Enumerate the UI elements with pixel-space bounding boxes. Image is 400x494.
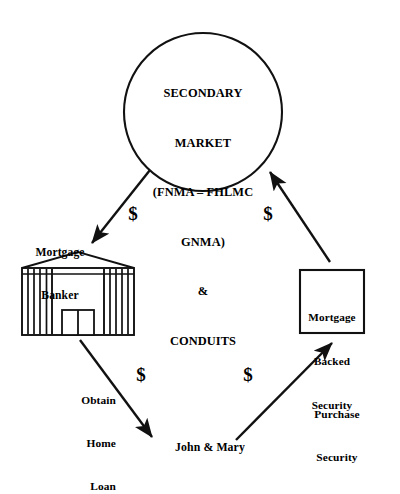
- mbs-line: Backed: [300, 354, 364, 369]
- mbs-line: Mortgage: [300, 310, 364, 325]
- dollar-sign-banker-to-borrower: $: [131, 364, 151, 386]
- borrower-label: John & Mary: [150, 441, 270, 455]
- dollar-sign-borrower-to-mbs: $: [238, 364, 258, 386]
- purchase-security-line: Security: [296, 450, 378, 464]
- obtain-home-loan-line: Home: [24, 436, 116, 450]
- secondary-market-line: (FNMA – FHLMC: [124, 184, 282, 201]
- secondary-market-line: MARKET: [124, 135, 282, 152]
- dollar-sign-secondary-to-banker: $: [123, 203, 143, 225]
- secondary-market-line: SECONDARY: [124, 85, 282, 102]
- mortgage-banker-line: Mortgage: [8, 246, 112, 260]
- obtain-home-loan-line: Loan: [24, 479, 116, 493]
- purchase-security-line: Purchase: [296, 407, 378, 421]
- purchase-security-label: Purchase Security: [296, 378, 378, 493]
- mortgage-banker-line: Banker: [8, 289, 112, 303]
- dollar-sign-mbs-to-secondary: $: [258, 203, 278, 225]
- mortgage-banker-label: Mortgage Banker: [8, 218, 112, 331]
- secondary-market-line: CONDUITS: [124, 333, 282, 350]
- secondary-market-line: &: [124, 283, 282, 300]
- obtain-home-loan-label: Obtain Home Loan: [24, 364, 116, 494]
- secondary-market-line: GNMA): [124, 234, 282, 251]
- obtain-home-loan-line: Obtain: [24, 393, 116, 407]
